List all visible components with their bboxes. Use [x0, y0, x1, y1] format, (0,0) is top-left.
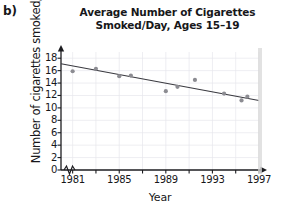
chart-figure: b) Average Number of Cigarettes Smoked/D… [0, 0, 285, 215]
y-tick-label: 6 [35, 128, 57, 138]
y-tick-label: 16 [35, 66, 57, 76]
data-points [71, 67, 250, 103]
x-tick-label: 1993 [192, 174, 232, 185]
axis-ticks [58, 58, 260, 173]
x-axis-label: Year [60, 191, 260, 204]
plot-svg [59, 46, 265, 174]
data-point [94, 67, 98, 71]
y-tick-label: 2 [35, 153, 57, 163]
trend-line [61, 64, 259, 101]
plot-area [59, 46, 259, 171]
data-point [193, 78, 197, 82]
data-point [71, 69, 75, 73]
data-point [117, 74, 121, 78]
data-point [175, 85, 179, 89]
x-tick-label: 1981 [53, 174, 93, 185]
data-point [245, 95, 249, 99]
chart-title-line-1: Average Number of Cigarettes [55, 6, 280, 19]
y-tick-label: 8 [35, 115, 57, 125]
x-tick-label: 1985 [99, 174, 139, 185]
y-tick-label: 10 [35, 103, 57, 113]
chart-title: Average Number of Cigarettes Smoked/Day,… [55, 6, 280, 31]
y-tick-label: 12 [35, 90, 57, 100]
y-tick-label: 14 [35, 78, 57, 88]
part-label: b) [3, 4, 17, 18]
data-point [129, 74, 133, 78]
chart-title-line-2: Smoked/Day, Ages 15–19 [55, 19, 280, 32]
y-tick-label-group: 024681012141618 [33, 46, 57, 171]
data-point [222, 92, 226, 96]
y-tick-label: 18 [35, 53, 57, 63]
right-edge-band [258, 48, 262, 174]
x-tick-label: 1989 [146, 174, 186, 185]
x-tick-label: 1997 [239, 174, 279, 185]
data-point [164, 89, 168, 93]
data-point [239, 98, 243, 102]
y-tick-label: 4 [35, 140, 57, 150]
x-tick-label-group: 19811985198919931997 [40, 174, 280, 188]
